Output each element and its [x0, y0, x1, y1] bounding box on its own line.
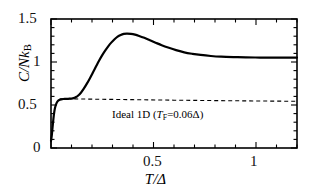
specific-heat-figure: C/NkB T/Δ 1.5 1 0.5 0 0.5 1 Ideal 1D (TF…: [0, 0, 311, 194]
y-tick-label-1-0: 1: [33, 54, 41, 69]
y-tick-label-0-0: 0: [33, 140, 41, 155]
y-axis-title: C/NkB: [17, 28, 33, 98]
annotation-suffix: ): [200, 108, 204, 120]
x-axis-title-text: T/Δ: [145, 171, 166, 187]
x-tick-label-0-5: 0.5: [143, 154, 162, 169]
y-axis-title-subscript: B: [21, 44, 33, 51]
ideal-1d-annotation: Ideal 1D (TF=0.06Δ): [112, 109, 203, 122]
y-tick-label-1-5: 1.5: [18, 11, 37, 26]
x-tick-label-1-0: 1: [250, 154, 258, 169]
annotation-prefix: Ideal 1D (: [112, 108, 157, 120]
x-axis-title: T/Δ: [0, 172, 311, 187]
y-tick-label-0-5: 0.5: [18, 97, 37, 112]
annotation-value: =0.06Δ: [167, 108, 200, 120]
y-axis-title-text: C/Nk: [16, 51, 32, 82]
